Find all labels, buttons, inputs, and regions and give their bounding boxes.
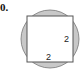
inscribed-square-diagram: 2 2 — [0, 0, 80, 74]
side-label-right: 2 — [64, 34, 69, 44]
side-label-bottom: 2 — [46, 52, 51, 62]
